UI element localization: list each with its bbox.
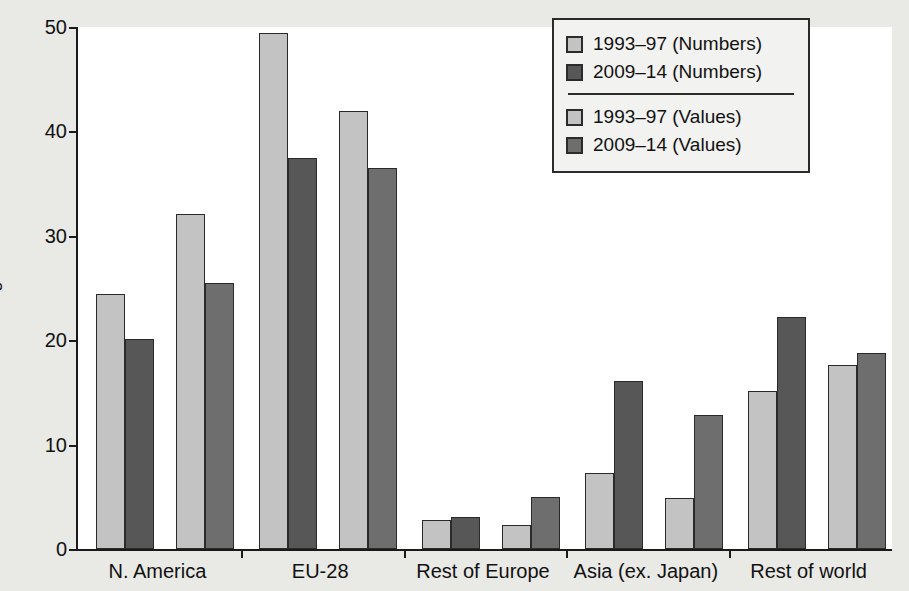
- legend: 1993–97 (Numbers) 2009–14 (Numbers) 1993…: [552, 18, 810, 173]
- bar: [694, 415, 723, 549]
- legend-swatch-icon-2: [566, 109, 583, 126]
- x-axis-tick: [729, 549, 731, 558]
- x-axis-tick: [241, 549, 243, 558]
- bar: [828, 365, 857, 549]
- legend-swatch-icon-3: [566, 137, 583, 154]
- x-axis-tick: [404, 549, 406, 558]
- y-axis-tick: [69, 131, 78, 133]
- figure: 01020304050 N. AmericaEU-28Rest of Europ…: [0, 0, 909, 591]
- y-axis-tick: [69, 340, 78, 342]
- bar: [614, 381, 643, 549]
- x-axis-category-label: N. America: [108, 560, 206, 583]
- legend-swatch-icon-1: [566, 64, 583, 81]
- x-axis-category-label: Asia (ex. Japan): [574, 560, 719, 583]
- y-axis-tick: [69, 549, 78, 551]
- bar: [288, 158, 317, 550]
- bar: [777, 317, 806, 549]
- bar: [205, 283, 234, 549]
- y-axis-tick: [69, 445, 78, 447]
- y-axis-tick-label: 20: [45, 329, 67, 352]
- bar: [585, 473, 614, 549]
- bar: [857, 353, 886, 549]
- legend-label-1: 2009–14 (Numbers): [593, 61, 762, 83]
- bar: [748, 391, 777, 549]
- legend-swatch-icon-0: [566, 36, 583, 53]
- legend-label-3: 2009–14 (Values): [593, 134, 742, 156]
- y-axis-tick-label: 10: [45, 433, 67, 456]
- bar: [368, 168, 397, 549]
- x-axis-category-label: Rest of world: [750, 560, 867, 583]
- bar: [422, 520, 451, 549]
- y-axis-tick-label: 40: [45, 120, 67, 143]
- bar: [502, 525, 531, 549]
- y-axis-tick-label: 0: [56, 538, 67, 561]
- legend-item-3[interactable]: 2009–14 (Values): [566, 131, 796, 159]
- bar: [259, 33, 288, 549]
- bar: [531, 497, 560, 549]
- x-axis-tick: [566, 549, 568, 558]
- y-axis-tick-label: 50: [45, 16, 67, 39]
- x-axis-category-label: EU-28: [292, 560, 349, 583]
- bar: [125, 339, 154, 549]
- bar: [96, 294, 125, 549]
- bar: [451, 517, 480, 549]
- bar: [176, 214, 205, 549]
- legend-divider: [568, 93, 794, 95]
- y-axis-title: Percentage of total: [0, 212, 3, 363]
- y-axis-tick: [69, 236, 78, 238]
- legend-item-1[interactable]: 2009–14 (Numbers): [566, 58, 796, 86]
- y-axis-tick: [69, 27, 78, 29]
- legend-label-2: 1993–97 (Values): [593, 106, 742, 128]
- legend-label-0: 1993–97 (Numbers): [593, 33, 762, 55]
- bar: [665, 498, 694, 549]
- x-axis-category-label: Rest of Europe: [416, 560, 549, 583]
- legend-item-2[interactable]: 1993–97 (Values): [566, 103, 796, 131]
- y-axis-tick-label: 30: [45, 224, 67, 247]
- legend-item-0[interactable]: 1993–97 (Numbers): [566, 30, 796, 58]
- bar: [339, 111, 368, 549]
